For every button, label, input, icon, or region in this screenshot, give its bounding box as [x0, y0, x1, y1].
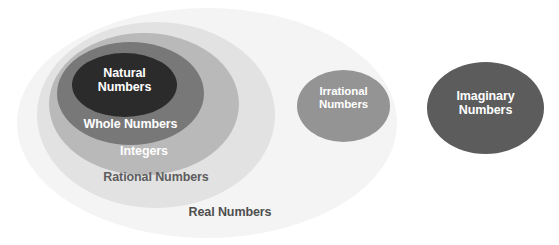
- set-label-natural-numbers: Natural Numbers: [72, 66, 177, 94]
- set-label-rational-numbers: Rational Numbers: [37, 170, 275, 184]
- number-sets-diagram: Natural Numbers Whole Numbers Integers R…: [0, 0, 559, 245]
- set-label-real-numbers: Real Numbers: [140, 205, 320, 219]
- set-label-imaginary-numbers: Imaginary Numbers: [427, 89, 544, 117]
- set-label-irrational-numbers: Irrational Numbers: [297, 85, 390, 111]
- set-label-whole-numbers: Whole Numbers: [57, 117, 204, 131]
- set-label-integers: Integers: [49, 144, 239, 158]
